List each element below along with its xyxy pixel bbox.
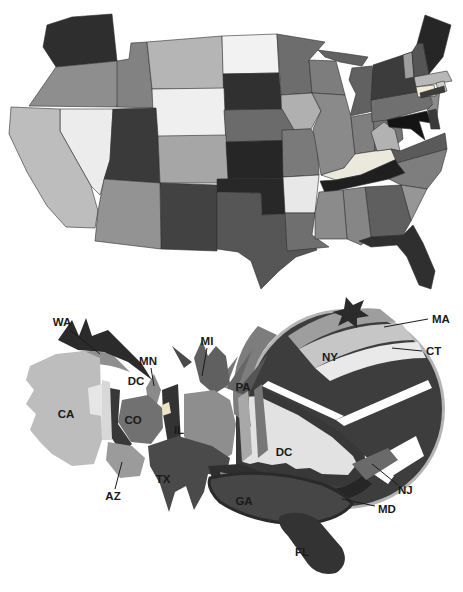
state-OR — [29, 61, 122, 107]
state-WA — [43, 14, 117, 67]
label-nj: NJ — [398, 484, 413, 496]
state-MO — [282, 129, 319, 177]
state-DE — [428, 109, 440, 129]
us-choropleth-map — [0, 0, 463, 296]
state-AR — [283, 175, 319, 213]
label-ct: CT — [426, 345, 441, 357]
label-pa: PA — [235, 381, 250, 393]
label-az: AZ — [105, 490, 120, 502]
state-SD — [223, 73, 282, 110]
cartogram-region-FL — [279, 513, 345, 574]
label-mi: MI — [201, 335, 214, 347]
state-AZ — [95, 179, 161, 249]
cartogram-region-MI-spike — [172, 346, 192, 368]
state-WI — [309, 60, 345, 95]
state-CO — [158, 135, 229, 183]
state-UT — [104, 108, 160, 183]
label-ma: MA — [432, 313, 450, 325]
label-fl: FL — [295, 546, 309, 558]
figure-page: WA MA CT MI MN DC PA NY CA CO IL DC TX A… — [0, 0, 463, 592]
label-dc-center: DC — [276, 446, 293, 458]
label-ga: GA — [235, 495, 252, 507]
state-WY — [152, 88, 226, 137]
label-md: MD — [378, 503, 396, 515]
cartogram-region-AZ — [106, 442, 145, 478]
label-ny: NY — [322, 351, 338, 363]
label-tx: TX — [156, 473, 171, 485]
label-dc-small: DC — [128, 375, 145, 387]
cartogram-region-MI — [194, 340, 230, 394]
label-ca: CA — [58, 408, 75, 420]
state-NM — [160, 183, 217, 251]
label-il: IL — [174, 424, 184, 436]
state-ND — [222, 34, 279, 74]
state-MS — [315, 190, 347, 239]
label-co: CO — [124, 414, 141, 426]
label-mn: MN — [139, 355, 157, 367]
us-cartogram-map: WA MA CT MI MN DC PA NY CA CO IL DC TX A… — [0, 296, 463, 592]
cartogram-ca-pale-patch — [88, 384, 102, 416]
label-wa: WA — [53, 316, 72, 328]
state-MT — [147, 36, 224, 89]
